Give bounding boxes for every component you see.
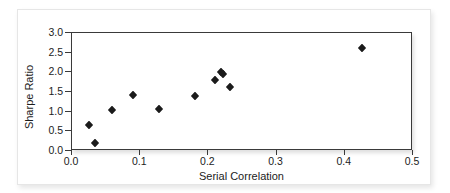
data-point	[211, 76, 219, 84]
y-axis-tick-label: 0.0	[35, 145, 63, 156]
x-axis-tick-label: 0.0	[51, 156, 91, 167]
y-axis-tick	[65, 130, 71, 131]
data-point	[129, 91, 137, 99]
plot-frame	[71, 32, 412, 150]
y-axis-title: Sharpe Ratio	[23, 37, 35, 157]
y-axis-tick	[65, 91, 71, 92]
figure-page: Serial Correlation Sharpe Ratio 0.00.51.…	[0, 0, 450, 193]
x-axis-title: Serial Correlation	[71, 170, 412, 182]
data-point	[191, 92, 199, 100]
x-axis-tick-label: 0.1	[119, 156, 159, 167]
y-axis-tick	[65, 111, 71, 112]
y-axis-tick-label: 1.5	[35, 86, 63, 97]
x-axis-tick-label: 0.4	[324, 156, 364, 167]
y-axis-tick-label: 2.5	[35, 46, 63, 57]
x-axis-tick-label: 0.2	[187, 156, 227, 167]
y-axis-tick-label: 1.0	[35, 105, 63, 116]
x-axis-tick-label: 0.3	[256, 156, 296, 167]
y-axis-tick	[65, 32, 71, 33]
y-axis-tick	[65, 52, 71, 53]
scatter-chart: Serial Correlation Sharpe Ratio 0.00.51.…	[0, 0, 450, 193]
x-axis-tick-label: 0.5	[392, 156, 432, 167]
y-axis-tick	[65, 71, 71, 72]
data-point	[85, 120, 93, 128]
data-point	[358, 44, 366, 52]
data-point	[90, 138, 98, 146]
data-point	[155, 105, 163, 113]
y-axis-tick-label: 2.0	[35, 66, 63, 77]
data-point	[219, 69, 227, 77]
y-axis-tick-label: 3.0	[35, 27, 63, 38]
y-axis-tick-label: 0.5	[35, 125, 63, 136]
data-point	[107, 105, 115, 113]
plot-data-area	[72, 33, 411, 149]
data-point	[225, 83, 233, 91]
